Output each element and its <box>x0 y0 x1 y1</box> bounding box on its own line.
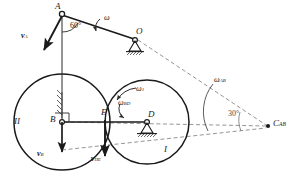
label-point-e: E <box>101 108 107 117</box>
vb-subscript: B <box>41 152 44 157</box>
arc-arrow-omega <box>96 19 100 31</box>
angle-30-unit: ° <box>236 109 239 118</box>
omega-bd-subscript: BD <box>124 101 131 106</box>
arc-omega-ab <box>203 84 213 131</box>
label-velocity-viie: vIIE <box>91 155 101 163</box>
construction-lines <box>62 40 266 150</box>
label-cab-subscript: AB <box>279 121 286 127</box>
label-disk-one: I <box>164 145 167 154</box>
label-omega-1: ω1 <box>136 85 144 93</box>
line-o-to-cab <box>138 40 266 125</box>
label-point-b: B <box>50 115 56 124</box>
label-disk-two: II <box>14 117 20 126</box>
label-omega-ab: ωAB <box>214 76 226 84</box>
figure-canvas: A O B E D CAB II I 60° 30° vA vB vIIE ω … <box>0 0 301 194</box>
omega-symbol: ω <box>104 13 110 22</box>
label-velocity-vb: vB <box>37 150 44 158</box>
viie-subscript: IIE <box>95 157 101 162</box>
vector-va <box>44 16 62 50</box>
label-point-cab: CAB <box>273 119 286 128</box>
angle-60-value: 60 <box>70 21 78 30</box>
label-velocity-va: vA <box>21 32 28 40</box>
omega-ab-subscript: AB <box>220 78 226 83</box>
label-point-a: A <box>55 2 61 11</box>
node-a <box>59 11 64 16</box>
omega-1-subscript: 1 <box>142 87 144 92</box>
mechanism-drawing <box>0 0 301 194</box>
pin-support-o <box>126 41 144 55</box>
node-cab <box>266 124 270 128</box>
label-omega-bd: ωBD <box>118 99 130 107</box>
angle-60-unit: ° <box>78 21 81 30</box>
hatch-above-b <box>57 90 62 118</box>
va-subscript: A <box>25 34 28 39</box>
label-point-o: O <box>136 27 143 36</box>
label-point-d: D <box>148 110 155 119</box>
label-angle-30: 30° <box>228 110 239 118</box>
label-omega: ω <box>104 14 110 22</box>
pin-support-d <box>137 123 157 137</box>
angle-30-value: 30 <box>228 109 236 118</box>
label-angle-60: 60° <box>70 22 81 30</box>
